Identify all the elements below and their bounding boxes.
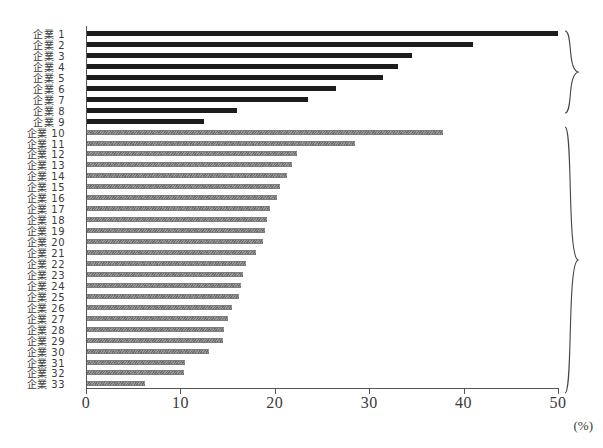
chart-row: 企業 16 xyxy=(0,193,603,204)
chart-row: 企業 29 xyxy=(0,336,603,347)
bar-dark xyxy=(86,108,237,113)
bar-light xyxy=(86,130,443,135)
chart-row: 企業 5 xyxy=(0,73,603,84)
chart-row: 企業 12 xyxy=(0,149,603,160)
category-label: 企業 28 xyxy=(0,325,65,336)
category-label: 企業 23 xyxy=(0,270,65,281)
bar-light xyxy=(86,283,241,288)
category-label: 企業 17 xyxy=(0,204,65,215)
bar-dark xyxy=(86,119,204,124)
category-label: 企業 30 xyxy=(0,347,65,358)
axis-unit-label: (%) xyxy=(574,418,594,434)
chart-row: 企業 28 xyxy=(0,325,603,336)
chart-row: 企業 23 xyxy=(0,270,603,281)
chart-row: 企業 25 xyxy=(0,292,603,303)
chart-row: 企業 18 xyxy=(0,215,603,226)
bar-light xyxy=(86,349,209,354)
chart-row: 企業 14 xyxy=(0,171,603,182)
x-tick-label-10: 10 xyxy=(172,394,189,412)
bar-dark xyxy=(86,75,383,80)
category-label: 企業 3 xyxy=(0,51,65,62)
bar-light xyxy=(86,206,270,211)
category-label: 企業 21 xyxy=(0,248,65,259)
bar-light xyxy=(86,162,292,167)
bar-light xyxy=(86,381,145,386)
chart-row: 企業 17 xyxy=(0,204,603,215)
bar-dark xyxy=(86,53,412,58)
bar-light xyxy=(86,272,243,277)
chart-row: 企業 10 xyxy=(0,128,603,139)
bar-dark xyxy=(86,64,398,69)
category-label: 企業 31 xyxy=(0,358,65,369)
category-label: 企業 20 xyxy=(0,237,65,248)
chart-row: 企業 4 xyxy=(0,62,603,73)
category-label: 企業 33 xyxy=(0,379,65,390)
bar-light xyxy=(86,217,267,222)
bar-light xyxy=(86,239,263,244)
y-axis-line xyxy=(86,26,87,388)
bar-light xyxy=(86,261,246,266)
bar-light xyxy=(86,195,277,200)
category-label: 企業 9 xyxy=(0,117,65,128)
category-label: 企業 19 xyxy=(0,226,65,237)
category-label: 企業 26 xyxy=(0,303,65,314)
chart-row: 企業 19 xyxy=(0,226,603,237)
bar-dark xyxy=(86,42,473,47)
bar-light xyxy=(86,294,239,299)
category-label: 企業 7 xyxy=(0,95,65,106)
bar-light xyxy=(86,141,355,146)
x-tick-label-20: 20 xyxy=(266,394,283,412)
chart-row: 企業 7 xyxy=(0,95,603,106)
bar-light xyxy=(86,173,287,178)
bar-dark xyxy=(86,86,336,91)
chart-row: 企業 6 xyxy=(0,84,603,95)
chart-row: 企業 3 xyxy=(0,51,603,62)
chart-row: 企業 1 xyxy=(0,29,603,40)
x-tick-label-0: 0 xyxy=(82,394,91,412)
chart-row: 企業 13 xyxy=(0,160,603,171)
bar-light xyxy=(86,250,256,255)
chart-row: 企業 26 xyxy=(0,303,603,314)
chart-row: 企業 11 xyxy=(0,139,603,150)
chart-row: 企業 22 xyxy=(0,259,603,270)
bar-light xyxy=(86,370,184,375)
category-label: 企業 13 xyxy=(0,160,65,171)
chart-row: 企業 9 xyxy=(0,117,603,128)
chart-row: 企業 32 xyxy=(0,368,603,379)
chart-row: 企業 31 xyxy=(0,358,603,369)
chart-row: 企業 24 xyxy=(0,281,603,292)
group-brace-lower xyxy=(563,126,585,394)
x-tick-label-30: 30 xyxy=(361,394,378,412)
chart-row: 企業 21 xyxy=(0,248,603,259)
bar-light xyxy=(86,228,265,233)
group-brace-upper xyxy=(563,30,585,114)
category-label: 企業 2 xyxy=(0,40,65,51)
chart-row: 企業 27 xyxy=(0,314,603,325)
category-label: 企業 14 xyxy=(0,171,65,182)
bar-light xyxy=(86,360,185,365)
category-label: 企業 25 xyxy=(0,292,65,303)
category-label: 企業 16 xyxy=(0,193,65,204)
category-label: 企業 18 xyxy=(0,215,65,226)
category-label: 企業 11 xyxy=(0,139,65,150)
category-label: 企業 12 xyxy=(0,149,65,160)
category-label: 企業 27 xyxy=(0,314,65,325)
category-label: 企業 29 xyxy=(0,336,65,347)
x-axis-line xyxy=(86,388,559,389)
x-tick-label-50: 50 xyxy=(550,394,567,412)
bar-light xyxy=(86,338,223,343)
category-label: 企業 15 xyxy=(0,182,65,193)
chart-row: 企業 15 xyxy=(0,182,603,193)
chart-row: 企業 20 xyxy=(0,237,603,248)
category-label: 企業 22 xyxy=(0,259,65,270)
chart-row: 企業 30 xyxy=(0,347,603,358)
category-label: 企業 24 xyxy=(0,281,65,292)
category-label: 企業 1 xyxy=(0,29,65,40)
bar-light xyxy=(86,316,228,321)
category-label: 企業 5 xyxy=(0,73,65,84)
bar-light xyxy=(86,327,224,332)
chart-row: 企業 8 xyxy=(0,106,603,117)
category-label: 企業 8 xyxy=(0,106,65,117)
bar-dark xyxy=(86,31,558,36)
category-label: 企業 4 xyxy=(0,62,65,73)
